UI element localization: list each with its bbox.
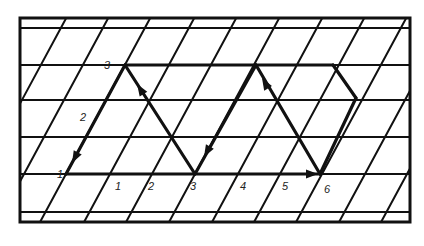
grid-slanted-line <box>84 18 194 222</box>
grid-slanted-line <box>212 18 322 222</box>
left-axis-label: 2 <box>79 111 86 123</box>
skewed-grid-diagram: 123123456 <box>0 0 424 246</box>
bold-path <box>66 65 356 174</box>
bottom-axis-label: 4 <box>240 180 246 192</box>
bottom-axis-label: 2 <box>147 180 154 192</box>
grid-slanted-line <box>381 168 410 222</box>
grid-slanted-line <box>126 18 236 222</box>
grid-slanted-line <box>254 18 364 222</box>
grid-slanted-line <box>20 18 66 104</box>
path-segment <box>333 65 356 98</box>
arrowhead-icon <box>306 170 318 179</box>
left-axis-label: 3 <box>104 59 111 71</box>
grid-lines <box>20 18 410 222</box>
bottom-axis-label: 5 <box>282 180 289 192</box>
grid-slanted-line <box>296 18 406 222</box>
bottom-axis-label: 6 <box>324 183 331 195</box>
left-axis-label: 1 <box>57 168 63 180</box>
arrowhead-icon <box>72 150 82 163</box>
bottom-axis-label: 1 <box>115 180 121 192</box>
bottom-axis-label: 3 <box>190 180 197 192</box>
